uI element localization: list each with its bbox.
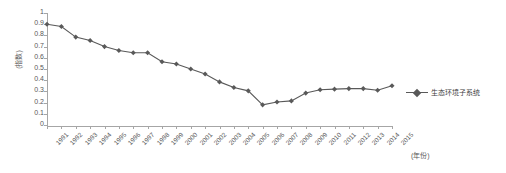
x-axis-tick-mark (220, 126, 221, 129)
y-axis-tick-label: 0.1 (34, 109, 44, 116)
data-point-marker (159, 59, 164, 64)
x-axis-tick-mark (378, 126, 379, 129)
data-point-marker (289, 98, 294, 103)
x-axis-tick-label: 2000 (184, 131, 199, 146)
data-point-marker (303, 91, 308, 96)
data-point-marker (375, 88, 380, 93)
y-axis-tick-label: 0.8 (34, 30, 44, 37)
x-axis-tick-mark (363, 126, 364, 129)
x-axis-tick-label: 2001 (198, 131, 213, 146)
x-axis-tick-mark (277, 126, 278, 129)
data-point-marker (174, 61, 179, 66)
legend-marker-icon (406, 88, 428, 97)
x-axis-tick-mark (133, 126, 134, 129)
x-axis-tick-label: 1995 (112, 131, 127, 146)
y-axis-tick-label: 0.9 (34, 19, 44, 26)
x-axis-tick-label: 2008 (299, 131, 314, 146)
data-point-marker (332, 87, 337, 92)
data-point-marker (116, 48, 121, 53)
chart-legend: 生态环境子系统 (406, 88, 480, 97)
x-axis-tick-mark (234, 126, 235, 129)
y-axis-tick-label: 1 (40, 8, 44, 15)
data-point-marker (145, 50, 150, 55)
x-axis-tick-label: 1994 (97, 131, 112, 146)
x-axis-tick-mark (306, 126, 307, 129)
x-axis-tick-mark (205, 126, 206, 129)
x-axis-tick-label: 2007 (284, 131, 299, 146)
x-axis-tick-mark (119, 126, 120, 129)
x-axis-tick-label: 1991 (54, 131, 69, 146)
x-axis-tick-mark (349, 126, 350, 129)
y-axis-tick-label: 0.4 (34, 75, 44, 82)
x-axis-tick-label: 2005 (255, 131, 270, 146)
series-ecological-environment-subsystem (47, 13, 392, 125)
x-axis-tick-mark (176, 126, 177, 129)
data-point-marker (231, 85, 236, 90)
y-axis-tick-label: 0.2 (34, 98, 44, 105)
x-axis-tick-label: 1999 (169, 131, 184, 146)
y-axis-tick-label: 0.5 (34, 64, 44, 71)
x-axis-tick-mark (263, 126, 264, 129)
data-point-marker (274, 99, 279, 104)
y-axis-tick-label: 0.6 (34, 53, 44, 60)
plot-area: 00.10.20.30.40.50.60.70.80.91 (47, 13, 392, 125)
x-axis-tick-label: 2014 (385, 131, 400, 146)
y-axis-tick-label: 0 (40, 120, 44, 127)
data-point-marker (131, 50, 136, 55)
x-axis-tick-label: 2009 (313, 131, 328, 146)
y-axis-tick-label: 0.7 (34, 42, 44, 49)
x-axis-tick-mark (392, 126, 393, 129)
data-point-marker (361, 86, 366, 91)
x-axis-tick-mark (76, 126, 77, 129)
x-axis-tick-label: 2002 (212, 131, 227, 146)
x-axis-tick-label: 2011 (342, 131, 357, 146)
x-axis-tick-label: 2013 (370, 131, 385, 146)
x-axis-tick-label: 2015 (399, 131, 414, 146)
y-axis-tick-label: 0.3 (34, 86, 44, 93)
x-axis-tick-label: 2012 (356, 131, 371, 146)
x-axis-tick-label: 1997 (140, 131, 155, 146)
x-axis-tick-mark (47, 126, 48, 129)
x-axis-tick-label: 1996 (126, 131, 141, 146)
x-axis-tick-mark (61, 126, 62, 129)
x-axis-tick-label: 2006 (270, 131, 285, 146)
x-axis-tick-mark (105, 126, 106, 129)
x-axis-tick-label: 2003 (227, 131, 242, 146)
y-axis-title: (指数) (15, 50, 22, 69)
data-point-marker (346, 86, 351, 91)
data-point-marker (203, 71, 208, 76)
legend-label: 生态环境子系统 (431, 89, 480, 97)
data-point-marker (88, 38, 93, 43)
data-point-marker (102, 44, 107, 49)
x-axis-tick-mark (320, 126, 321, 129)
x-axis-tick-mark (291, 126, 292, 129)
x-axis-tick-label: 1998 (155, 131, 170, 146)
x-axis-tick-mark (90, 126, 91, 129)
data-point-marker (389, 83, 394, 88)
data-point-marker (318, 87, 323, 92)
x-axis-tick-label: 2004 (241, 131, 256, 146)
chart-figure: (指数) (年份) 00.10.20.30.40.50.60.70.80.91 … (0, 0, 506, 173)
x-axis-tick-mark (148, 126, 149, 129)
data-point-marker (188, 66, 193, 71)
x-axis-tick-label: 1992 (69, 131, 84, 146)
x-axis-title: (年份) (411, 152, 430, 159)
x-axis-tick-mark (191, 126, 192, 129)
data-point-marker (44, 22, 49, 27)
data-point-marker (217, 79, 222, 84)
x-axis-tick-label: 2010 (327, 131, 342, 146)
x-axis-tick-mark (335, 126, 336, 129)
series-line (47, 24, 392, 105)
x-axis-tick-mark (248, 126, 249, 129)
x-axis-tick-label: 1993 (83, 131, 98, 146)
x-axis-tick-mark (162, 126, 163, 129)
